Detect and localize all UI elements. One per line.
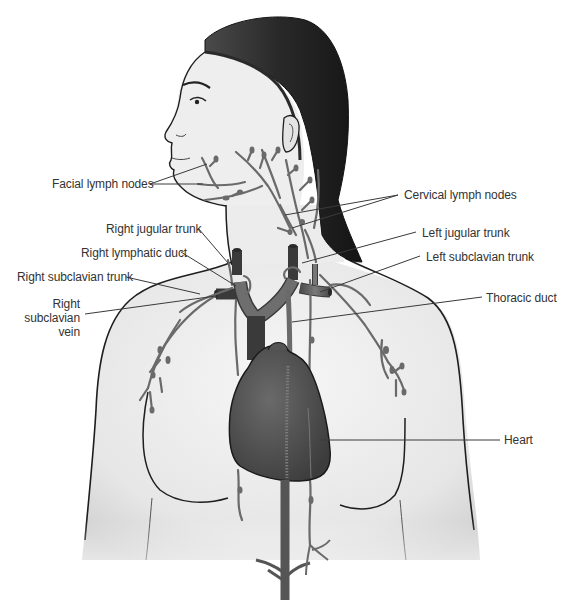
label-heart: Heart <box>504 433 533 447</box>
label-cervical-lymph-nodes: Cervical lymph nodes <box>404 188 517 202</box>
label-facial-lymph-nodes: Facial lymph nodes <box>52 177 154 191</box>
label-thoracic-duct: Thoracic duct <box>486 291 557 305</box>
lymphatic-diagram: Facial lymph nodes Cervical lymph nodes … <box>0 0 563 607</box>
label-right-jugular-trunk: Right jugular trunk <box>106 222 201 236</box>
label-right-subclavian-vein-line1: Right <box>22 297 80 311</box>
label-right-subclavian-vein-line2: subclavian <box>22 311 80 325</box>
label-right-lymphatic-duct: Right lymphatic duct <box>81 246 187 260</box>
label-left-jugular-trunk: Left jugular trunk <box>422 226 510 240</box>
label-right-subclavian-vein: Right subclavian vein <box>22 297 80 339</box>
label-right-subclavian-trunk: Right subclavian trunk <box>17 270 133 284</box>
label-left-subclavian-trunk: Left subclavian trunk <box>426 250 534 264</box>
label-right-subclavian-vein-line3: vein <box>22 325 80 339</box>
anatomy-illustration <box>0 0 563 607</box>
